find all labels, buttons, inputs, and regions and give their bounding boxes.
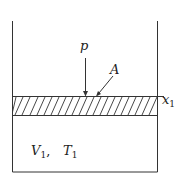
area-leader [96,76,113,97]
pressure-label: p [80,38,89,53]
state-label: V1, T1 [31,143,77,160]
position-label: x1 [162,92,175,109]
arrowhead-icon [83,91,88,97]
piston-hatching [13,97,158,115]
piston [13,97,165,116]
pressure-arrow [83,58,88,97]
area-label: A [109,62,119,77]
piston-cylinder-diagram: p A x1 V1, T1 [0,0,178,181]
